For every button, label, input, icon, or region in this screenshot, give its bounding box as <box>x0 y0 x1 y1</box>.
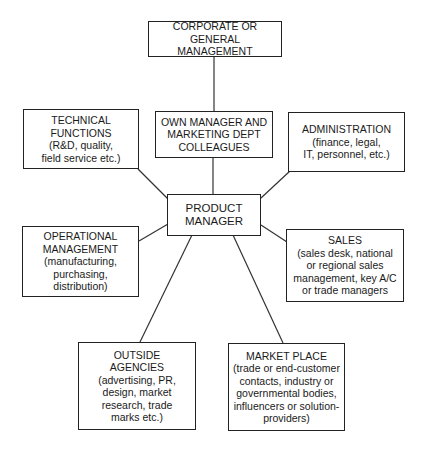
node-detail: (trade or end-customer contacts, industr… <box>233 362 340 425</box>
edge-sales-product-manager <box>261 225 287 242</box>
edge-technical-product-manager <box>138 169 168 199</box>
node-detail: (finance, legal, IT, personnel, etc.) <box>303 136 389 161</box>
edge-market-place-product-manager <box>233 235 283 343</box>
node-title: CORPORATE OR GENERAL MANAGEMENT <box>152 20 278 58</box>
node-technical-functions: TECHNICAL FUNCTIONS (R&D, quality, field… <box>23 109 139 169</box>
node-own-manager: OWN MANAGER AND MARKETING DEPT COLLEAGUE… <box>155 111 273 158</box>
node-title: MARKET PLACE <box>246 350 327 363</box>
node-operational-management: OPERATIONAL MANAGEMENT (manufacturing, p… <box>22 226 139 297</box>
node-market-place: MARKET PLACE (trade or end-customer cont… <box>228 343 345 431</box>
node-title: OPERATIONAL MANAGEMENT <box>43 230 118 255</box>
node-title: TECHNICAL FUNCTIONS <box>50 114 111 139</box>
edge-outside-agencies-product-manager <box>140 235 192 342</box>
node-sales: SALES (sales desk, national or regional … <box>286 229 404 302</box>
node-detail: (R&D, quality, field service etc.) <box>42 139 121 164</box>
node-title: SALES <box>328 234 362 247</box>
node-detail: (manufacturing, purchasing, distribution… <box>44 255 117 293</box>
node-title: OWN MANAGER AND MARKETING DEPT COLLEAGUE… <box>161 116 267 154</box>
node-detail: (advertising, PR, design, market researc… <box>98 374 176 424</box>
node-corporate-management: CORPORATE OR GENERAL MANAGEMENT <box>148 21 282 57</box>
node-title: PRODUCT MANAGER <box>185 202 243 229</box>
node-title: OUTSIDE AGENCIES <box>110 349 164 374</box>
edge-operational-product-manager <box>139 224 168 241</box>
node-outside-agencies: OUTSIDE AGENCIES (advertising, PR, desig… <box>78 342 196 430</box>
edge-administration-product-manager <box>261 171 290 198</box>
node-title: ADMINISTRATION <box>302 123 391 136</box>
node-product-manager: PRODUCT MANAGER <box>167 194 261 236</box>
node-detail: (sales desk, national or regional sales … <box>293 247 396 297</box>
node-administration: ADMINISTRATION (finance, legal, IT, pers… <box>288 112 405 172</box>
